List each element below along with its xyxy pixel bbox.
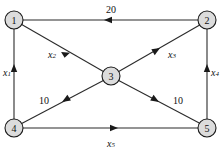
edge-label-4-1: x1	[2, 67, 11, 79]
edge-label-1-3: x2	[47, 49, 56, 61]
graph-canvas: 20 x1 x2 x3	[0, 0, 222, 153]
node-5[interactable]: 5	[198, 119, 216, 137]
network-diagram-figure: 20 x1 x2 x3	[0, 0, 222, 153]
node-1[interactable]: 1	[5, 11, 23, 29]
arrow-head-1-3	[61, 52, 70, 58]
edge-label-4-5: x5	[106, 138, 115, 150]
arrow-head-5-2	[204, 64, 210, 72]
edge-label-3-5: 10	[173, 95, 183, 106]
edge-label-5-2: x4	[210, 67, 219, 79]
edge-label-3-4: 10	[39, 95, 49, 106]
edge-label-2-1: 20	[106, 4, 116, 15]
edge-line-3-5	[119, 80, 200, 123]
edge-5-to-2: x4	[204, 29, 220, 119]
node-2-label: 2	[205, 15, 210, 26]
edge-4-to-1: x1	[2, 29, 17, 119]
edge-3-to-4: 10	[22, 80, 104, 123]
arrow-head-2-1	[104, 17, 112, 23]
edge-line-1-3	[22, 25, 104, 72]
edge-2-to-1: 20	[23, 4, 198, 24]
arrow-head-3-5	[150, 95, 159, 102]
edge-4-to-5: x5	[23, 125, 198, 149]
arrow-head-4-5	[110, 125, 118, 131]
node-2[interactable]: 2	[198, 11, 216, 29]
edge-1-to-3: x2	[22, 25, 104, 72]
node-3-label: 3	[109, 71, 114, 82]
arrow-head-4-1	[11, 64, 17, 72]
edge-label-3-2: x3	[167, 49, 176, 61]
edge-3-to-2: x3	[119, 25, 200, 72]
edge-line-3-4	[22, 80, 104, 123]
node-3[interactable]: 3	[102, 67, 120, 85]
node-5-label: 5	[205, 123, 210, 134]
edge-3-to-5: 10	[119, 80, 200, 123]
node-1-label: 1	[12, 15, 17, 26]
node-4-label: 4	[12, 123, 17, 134]
node-4[interactable]: 4	[5, 119, 23, 137]
